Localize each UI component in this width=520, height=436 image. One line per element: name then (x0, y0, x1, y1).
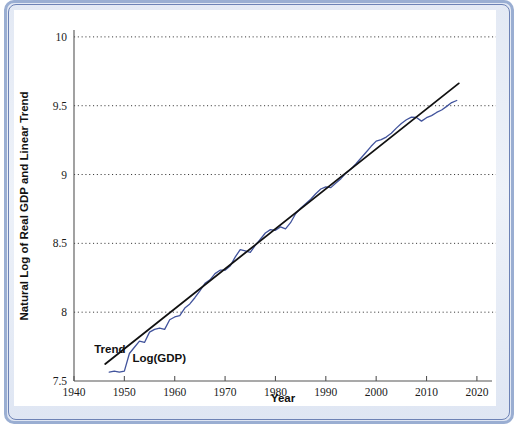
y-tick-label-9.5: 9.5 (53, 100, 68, 112)
log-gdp-label: Log(GDP) (132, 352, 186, 364)
x-tick-label-1970: 1970 (214, 386, 237, 398)
x-tick-label-1960: 1960 (163, 386, 186, 398)
x-tick-label-1990: 1990 (314, 386, 337, 398)
y-axis-ticks: 7.588.599.510 (53, 31, 68, 387)
gdp-trend-chart: 194019501960197019801990200020102020 7.5… (14, 10, 496, 406)
y-tick-label-7.5: 7.5 (53, 375, 68, 387)
trend-label: Trend (94, 343, 125, 355)
data-series (105, 83, 459, 372)
x-tick-label-2020: 2020 (465, 386, 488, 398)
series-line-loggdp (109, 100, 457, 372)
x-tick-label-2010: 2010 (415, 386, 438, 398)
x-tick-label-1940: 1940 (63, 386, 86, 398)
y-tick-label-8: 8 (61, 306, 67, 318)
y-axis-title: Natural Log of Real GDP and Linear Trend (18, 91, 30, 320)
x-tick-label-2000: 2000 (365, 386, 388, 398)
figure-root: 194019501960197019801990200020102020 7.5… (0, 0, 520, 436)
series-line-trend (105, 83, 459, 364)
figure-plot-panel: 194019501960197019801990200020102020 7.5… (14, 10, 496, 406)
y-tick-label-9: 9 (61, 169, 67, 181)
axes (74, 30, 492, 381)
y-tick-label-8.5: 8.5 (53, 237, 68, 249)
x-axis-title: Year (271, 392, 296, 404)
y-tick-label-10: 10 (56, 31, 68, 43)
gridlines (74, 37, 496, 312)
x-tick-label-1950: 1950 (113, 386, 136, 398)
